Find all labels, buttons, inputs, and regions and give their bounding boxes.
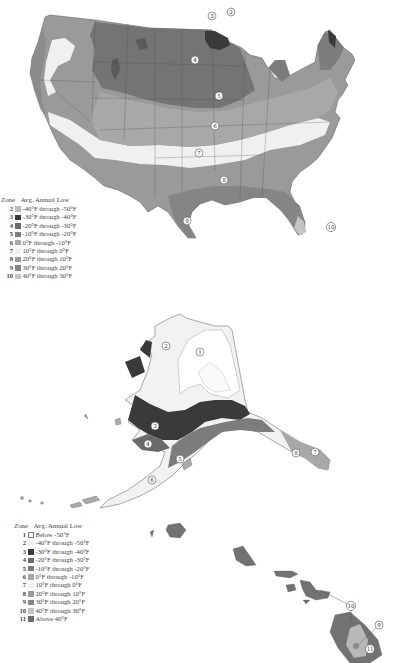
zone-label-3: 3 [208, 12, 216, 20]
svg-text:3: 3 [153, 423, 157, 429]
legend-swatch [15, 206, 21, 212]
zone-label-9: 9 [183, 217, 191, 225]
zone-label-5: 5 [215, 92, 223, 100]
legend-swatch [15, 240, 21, 246]
svg-text:5: 5 [178, 456, 182, 462]
zone-3-region [205, 30, 336, 50]
legend-row-zone-10: 1040°F through 30°F [14, 607, 90, 615]
zone-label-7: 7 [195, 149, 203, 157]
zone-label-8: 8 [292, 449, 300, 457]
legend-zone-number: 11 [14, 615, 26, 623]
legend-row-zone-10: 1040°F through 30°F [1, 272, 77, 280]
zone-label-10: 10 [346, 601, 355, 610]
maui [300, 580, 330, 600]
kauai [166, 523, 186, 538]
alaska-map [21, 314, 331, 508]
legend-row-zone-6: 60°F through -10°F [14, 573, 90, 581]
legend-zone-number: 10 [1, 272, 13, 280]
zone-9-gulf [168, 186, 305, 238]
legend-range-label: -40°F through -50°F [23, 205, 77, 213]
legend-zone-number: 1 [14, 531, 26, 539]
zone-label-5: 5 [176, 455, 184, 463]
legend-range-label: 40°F through 30°F [23, 272, 73, 280]
legend-row-zone-4: 4-20°F through -30°F [1, 222, 77, 230]
legend-range-label: -30°F through -40°F [23, 213, 77, 221]
legend-range-label: 10°F through 0°F [36, 581, 82, 589]
zone-label-6: 6 [211, 122, 219, 130]
legend-swatch [15, 248, 21, 254]
legend-swatch [28, 532, 34, 538]
legend-row-zone-8: 820°F through 10°F [14, 590, 90, 598]
legend-row-zone-6: 60°F through -10°F [1, 239, 77, 247]
legend-swatch [28, 541, 34, 547]
lanai [286, 584, 296, 592]
molokai [274, 571, 298, 578]
legend-header-zone: Zone [14, 522, 32, 530]
legend-zone-number: 5 [14, 565, 26, 573]
legend-range-label: Above 40°F [36, 615, 68, 623]
alaska-panhandle [280, 430, 330, 470]
legend-row-zone-7: 710°F through 0°F [14, 581, 90, 589]
zone-label-11: 11 [365, 644, 374, 653]
svg-text:1: 1 [198, 349, 202, 355]
legend-zone-number: 4 [14, 556, 26, 564]
legend-range-label: 10°F through 0°F [23, 247, 69, 255]
legend-zone-number: 6 [1, 239, 13, 247]
legend-zone-number: 10 [14, 607, 26, 615]
legend-zone-number: 2 [14, 539, 26, 547]
legend-zone-number: 3 [14, 548, 26, 556]
svg-text:10: 10 [347, 603, 355, 609]
continental-us-map [30, 15, 355, 238]
svg-text:9: 9 [185, 218, 189, 224]
legend-zone-number: 2 [1, 205, 13, 213]
svg-text:6: 6 [150, 477, 154, 483]
svg-text:11: 11 [366, 646, 373, 652]
legend-row-zone-8: 820°F through 10°F [1, 255, 77, 263]
legend-header-temp: Avg. Annual Low [34, 522, 82, 530]
svg-text:5: 5 [217, 93, 221, 99]
legend-row-zone-3: 3-30°F through -40°F [14, 548, 90, 556]
legend-swatch [28, 566, 34, 572]
zone-label-9: 9 [375, 621, 383, 629]
legend-row-zone-7: 710°F through 0°F [1, 247, 77, 255]
ak-hi-legend: Zone Avg. Annual Low 1Below -50°F2-40°F … [14, 522, 90, 623]
oahu [233, 546, 256, 566]
zone-label-4: 4 [144, 440, 152, 448]
legend-range-label: Below -50°F [36, 531, 70, 539]
legend-swatch [28, 591, 34, 597]
zone-label-2: 2 [162, 342, 170, 350]
legend-swatch [28, 549, 34, 555]
zone-label-3: 3 [151, 422, 159, 430]
zone-label-2: 2 [227, 8, 235, 16]
svg-text:6: 6 [213, 123, 217, 129]
legend-range-label: 0°F through -10°F [23, 239, 72, 247]
legend-zone-number: 7 [1, 247, 13, 255]
svg-text:2: 2 [164, 343, 168, 349]
legend-row-zone-9: 930°F through 20°F [14, 598, 90, 606]
legend-range-label: -20°F through -30°F [36, 556, 90, 564]
zone-label-10: 10 [326, 222, 335, 231]
big-island-summit [353, 643, 359, 649]
legend-row-zone-2: 2-40°F through -50°F [1, 205, 77, 213]
legend-row-zone-1: 1Below -50°F [14, 531, 90, 539]
legend-range-label: -40°F through -50°F [36, 539, 90, 547]
legend-range-label: -10°F through -20°F [23, 230, 77, 238]
legend-range-label: -30°F through -40°F [36, 548, 90, 556]
legend-row-zone-2: 2-40°F through -50°F [14, 539, 90, 547]
svg-text:10: 10 [327, 224, 335, 230]
legend-swatch [28, 583, 34, 589]
us-legend: Zone Avg. Annual Low 2-40°F through -50°… [1, 196, 77, 281]
svg-text:9: 9 [377, 622, 381, 628]
legend-zone-number: 9 [1, 264, 13, 272]
legend-swatch [28, 616, 34, 622]
legend-zone-number: 6 [14, 573, 26, 581]
legend-swatch [28, 574, 34, 580]
legend-row-zone-9: 930°F through 20°F [1, 264, 77, 272]
svg-text:7: 7 [197, 150, 201, 156]
legend-range-label: 30°F through 20°F [23, 264, 73, 272]
legend-swatch [28, 608, 34, 614]
legend-range-label: 0°F through -10°F [36, 573, 85, 581]
legend-zone-number: 7 [14, 581, 26, 589]
svg-text:7: 7 [313, 449, 317, 455]
legend-row-zone-3: 3-30°F through -40°F [1, 213, 77, 221]
